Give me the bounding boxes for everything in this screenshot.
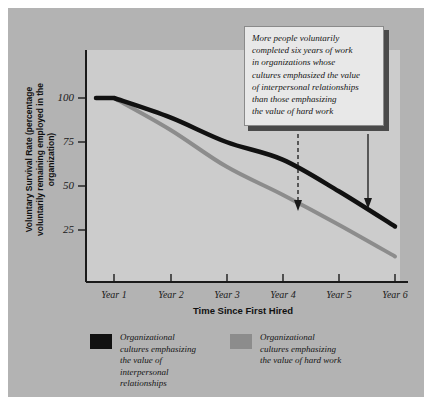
x-axis-title: Time Since First Hired — [86, 305, 400, 316]
annotation-arrow-solid — [364, 134, 372, 209]
legend-label-interpersonal: Organizational cultures emphasizing the … — [120, 332, 228, 390]
x-tick-label-year-6: Year 6 — [372, 289, 418, 300]
x-tick-label-year-1: Year 1 — [91, 289, 137, 300]
x-axis-ticks — [114, 274, 395, 282]
annotation-callout-text: More people voluntarily completed six ye… — [252, 32, 377, 117]
annotation-callout: More people voluntarily completed six ye… — [244, 26, 384, 126]
chart-figure: 100 75 50 25 Year 1 Year 2 Year 3 Year 4… — [0, 0, 432, 405]
x-tick-label-year-4: Year 4 — [260, 289, 306, 300]
legend-swatch-interpersonal — [90, 334, 112, 349]
legend-label-hard-work: Organizational cultures emphasizing the … — [260, 332, 368, 367]
y-axis-title: Voluntary Survival Rate (percentage volu… — [24, 65, 57, 255]
chart-panel: 100 75 50 25 Year 1 Year 2 Year 3 Year 4… — [8, 8, 424, 397]
x-tick-label-year-3: Year 3 — [204, 289, 250, 300]
y-axis-ticks — [78, 98, 86, 230]
legend-swatch-hard-work — [230, 334, 252, 349]
x-tick-label-year-5: Year 5 — [316, 289, 362, 300]
x-tick-label-year-2: Year 2 — [148, 289, 194, 300]
